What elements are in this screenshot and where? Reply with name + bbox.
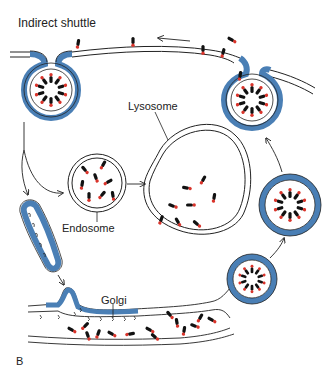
lysosome-label: Lysosome [128,100,178,112]
golgi-vesicle-to-coated-vesicle [270,238,284,258]
tubular-coated-vesicle [20,200,62,272]
figure-title: Indirect shuttle [18,16,96,30]
coated-vesicle-to-right-pit [266,138,282,172]
surface-cargo [75,36,237,58]
lysosome [144,112,251,234]
pit-to-endosome [24,150,63,193]
coated-vesicle-right [259,174,321,236]
coated-pit-right [224,58,280,128]
coated-pit-left [24,51,78,118]
endosome-label: Endosome [62,222,115,234]
surface-arrow-leftward [158,38,190,41]
golgi-label: Golgi [101,294,127,306]
golgi-budding-vesicle [227,254,277,304]
golgi-cisterna [28,286,234,345]
pit-to-tubular-vesicle [22,150,28,195]
tubular-vesicle-to-golgi [58,275,64,285]
panel-letter: B [16,355,23,367]
endosome [68,154,126,222]
indirect-shuttle-diagram [0,0,334,380]
